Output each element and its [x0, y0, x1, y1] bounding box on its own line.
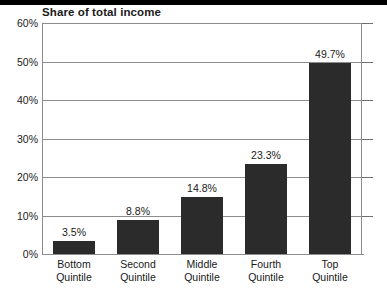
- bar-value-label: 14.8%: [187, 182, 217, 194]
- x-axis-baseline: [42, 254, 364, 255]
- x-axis: BottomQuintileSecondQuintileMiddleQuinti…: [0, 258, 387, 302]
- x-axis-category-line-1: Second: [120, 258, 156, 271]
- bar: [117, 220, 159, 254]
- x-axis-category-line-2: Quintile: [120, 271, 156, 284]
- x-axis-category-line-2: Quintile: [248, 271, 284, 284]
- bar-value-label: 3.5%: [62, 226, 86, 238]
- bar-value-label: 49.7%: [315, 48, 345, 60]
- x-axis-category-line-2: Quintile: [312, 271, 348, 284]
- bar: [53, 241, 95, 254]
- bar: [245, 164, 287, 254]
- x-axis-category-line-1: Bottom: [56, 258, 92, 271]
- bar: [181, 197, 223, 254]
- bar-value-label: 8.8%: [126, 205, 150, 217]
- bar-value-label: 23.3%: [251, 149, 281, 161]
- x-axis-category-label: MiddleQuintile: [184, 258, 220, 284]
- bar: [309, 63, 351, 254]
- x-axis-category-line-1: Top: [312, 258, 348, 271]
- x-axis-category-line-2: Quintile: [56, 271, 92, 284]
- x-axis-category-label: FourthQuintile: [248, 258, 284, 284]
- x-axis-category-label: BottomQuintile: [56, 258, 92, 284]
- bar-chart-figure: Share of total income 0%10%20%30%40%50%6…: [0, 0, 387, 307]
- x-axis-category-line-2: Quintile: [184, 271, 220, 284]
- x-axis-category-line-1: Middle: [184, 258, 220, 271]
- bars-group: 3.5%8.8%14.8%23.3%49.7%: [0, 0, 387, 254]
- x-axis-category-label: TopQuintile: [312, 258, 348, 284]
- x-axis-category-line-1: Fourth: [248, 258, 284, 271]
- x-axis-category-label: SecondQuintile: [120, 258, 156, 284]
